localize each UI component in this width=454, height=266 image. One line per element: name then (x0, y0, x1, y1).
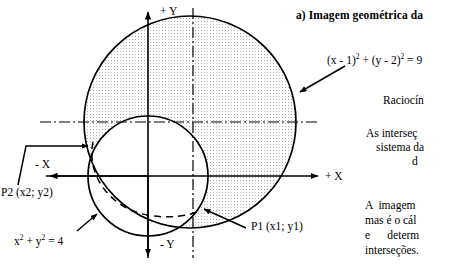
big-circle-leader (300, 66, 345, 92)
body-line-5: A imagem (365, 199, 415, 212)
axis-label-x-negative: - X (35, 158, 50, 171)
figure-page: a) Imagem geométrica da + Y - Y + X - X … (0, 0, 454, 266)
body-line-7: e determ (365, 229, 419, 242)
body-line-2: As interseç (366, 127, 417, 140)
small-circle-leader (77, 214, 97, 231)
body-line-4: d (412, 155, 418, 168)
body-line-3: sistema da (376, 141, 424, 154)
axis-label-y-negative: - Y (160, 238, 175, 251)
big-circle-eq-tail: = 9 (404, 54, 422, 66)
body-line-6: mas é o cál (365, 214, 416, 227)
point-label-p2: P2 (x2; y2) (1, 186, 53, 199)
big-circle-eq-base: (x - 1) (327, 54, 356, 66)
small-circle-eq-tail: = 4 (45, 235, 63, 247)
small-circle-eq-mid: + y (24, 235, 42, 247)
point-label-p1: P1 (x1; y1) (251, 220, 303, 233)
big-circle-equation: (x - 1)2 + (y - 2)2 = 9 (327, 54, 422, 67)
figure-title: a) Imagem geométrica da (296, 9, 423, 22)
big-circle-eq-mid: + (y - 2) (360, 54, 401, 66)
p2-leader (18, 146, 88, 185)
body-line-1: Raciocín (383, 94, 424, 107)
axis-label-y-positive: + Y (160, 5, 177, 18)
axis-label-x-positive: + X (325, 170, 343, 183)
body-line-8: interseções. (365, 244, 419, 257)
small-circle-equation: x2 + y2 = 4 (14, 235, 63, 248)
